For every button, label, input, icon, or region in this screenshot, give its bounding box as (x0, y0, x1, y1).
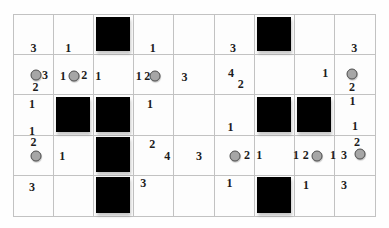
clue-number: 3 (182, 71, 188, 83)
clue-number: 1 (226, 177, 232, 189)
cell-r2c9[interactable]: 2 (335, 55, 375, 95)
clue-number: 1 (350, 95, 356, 107)
filled-square (96, 137, 130, 172)
cell-r5c5[interactable] (174, 176, 214, 216)
cell-r2c1[interactable]: 32 (14, 55, 54, 95)
clue-number: 3 (140, 177, 146, 189)
cell-r3c1[interactable]: 11 (14, 95, 54, 135)
cell-r5c2[interactable] (54, 176, 94, 216)
cell-r3c6[interactable]: 1 (215, 95, 255, 135)
cell-r5c9[interactable]: 3 (335, 176, 375, 216)
clue-number: 3 (351, 42, 357, 54)
clue-number: 3 (341, 179, 347, 191)
cell-r5c1[interactable]: 3 (14, 176, 54, 216)
clue-number: 1 (147, 98, 153, 110)
filled-square (257, 177, 291, 213)
clue-number: 1 (228, 121, 234, 133)
filled-square (297, 97, 331, 132)
filled-square (96, 97, 130, 132)
circle-marker (30, 151, 41, 162)
clue-number: 1 (95, 70, 101, 82)
cell-r5c7[interactable] (255, 176, 295, 216)
cell-r2c8[interactable]: 1 (295, 55, 335, 95)
cell-r1c6[interactable]: 3 (215, 15, 255, 55)
cell-r3c5[interactable] (174, 95, 214, 135)
cell-r4c4[interactable]: 24 (134, 136, 174, 176)
clue-number: 2 (303, 149, 309, 161)
circle-marker (30, 70, 41, 81)
clue-number: 2 (349, 81, 355, 93)
cell-r1c7[interactable] (255, 15, 295, 55)
cell-r4c9[interactable]: 32 (335, 136, 375, 176)
cell-r3c9[interactable]: 11 (335, 95, 375, 135)
cell-r3c4[interactable]: 1 (134, 95, 174, 135)
puzzle-screen: 3113332121123421211111121243211213233113 (0, 0, 389, 228)
clue-number: 1 (65, 42, 71, 54)
clue-number: 2 (144, 70, 150, 82)
cell-r3c2[interactable] (54, 95, 94, 135)
cell-r3c3[interactable] (94, 95, 134, 135)
cell-r3c8[interactable] (295, 95, 335, 135)
cell-r4c3[interactable] (94, 136, 134, 176)
cell-r1c2[interactable]: 1 (54, 15, 94, 55)
cell-r1c9[interactable]: 3 (335, 15, 375, 55)
clue-number: 3 (341, 149, 347, 161)
cell-r2c3[interactable]: 1 (94, 55, 134, 95)
clue-number: 1 (136, 70, 142, 82)
clue-number: 1 (322, 67, 328, 79)
cell-r2c5[interactable]: 3 (174, 55, 214, 95)
clue-number: 1 (60, 70, 66, 82)
clue-number: 2 (354, 136, 360, 148)
clue-number: 3 (230, 42, 236, 54)
clue-number: 1 (29, 98, 35, 110)
clue-number: 1 (59, 150, 65, 162)
circle-marker (150, 70, 161, 81)
cell-r5c6[interactable]: 1 (215, 176, 255, 216)
clue-number: 1 (352, 120, 358, 132)
clue-number: 3 (196, 150, 202, 162)
cell-r4c7[interactable]: 1 (255, 136, 295, 176)
circle-marker (69, 70, 80, 81)
cell-r1c5[interactable] (174, 15, 214, 55)
clue-number: 2 (244, 149, 250, 161)
circle-marker (229, 150, 240, 161)
cell-r5c3[interactable] (94, 176, 134, 216)
cell-r3c7[interactable] (255, 95, 295, 135)
cell-r1c3[interactable] (94, 15, 134, 55)
cell-r2c6[interactable]: 42 (215, 55, 255, 95)
filled-square (257, 17, 291, 52)
clue-number: 4 (164, 150, 170, 162)
clue-number: 1 (293, 149, 299, 161)
cell-r1c4[interactable]: 1 (134, 15, 174, 55)
cell-r4c1[interactable]: 2 (14, 136, 54, 176)
cell-r1c1[interactable]: 3 (14, 15, 54, 55)
clue-number: 2 (238, 78, 244, 90)
clue-number: 1 (330, 149, 336, 161)
filled-square (257, 97, 291, 132)
cell-r2c2[interactable]: 12 (54, 55, 94, 95)
cell-r4c8[interactable]: 121 (295, 136, 335, 176)
clue-number: 2 (31, 136, 37, 148)
cell-r2c4[interactable]: 12 (134, 55, 174, 95)
filled-square (96, 17, 130, 52)
clue-number: 2 (81, 69, 87, 81)
clue-number: 2 (149, 138, 155, 150)
cell-r5c4[interactable]: 3 (134, 176, 174, 216)
clue-number: 1 (150, 42, 156, 54)
cell-r1c8[interactable] (295, 15, 335, 55)
cell-r4c5[interactable]: 3 (174, 136, 214, 176)
cell-r4c6[interactable]: 2 (215, 136, 255, 176)
cell-r5c8[interactable]: 1 (295, 176, 335, 216)
clue-number: 3 (29, 181, 35, 193)
circle-marker (347, 68, 358, 79)
cell-r2c7[interactable] (255, 55, 295, 95)
clue-number: 4 (228, 67, 234, 79)
clue-number: 3 (31, 42, 37, 54)
cell-r4c2[interactable]: 1 (54, 136, 94, 176)
puzzle-board: 3113332121123421211111121243211213233113 (13, 14, 376, 217)
clue-number: 3 (42, 69, 48, 81)
clue-number: 1 (303, 179, 309, 191)
circle-marker (355, 149, 366, 160)
clue-number: 2 (33, 81, 39, 93)
filled-square (56, 97, 90, 132)
